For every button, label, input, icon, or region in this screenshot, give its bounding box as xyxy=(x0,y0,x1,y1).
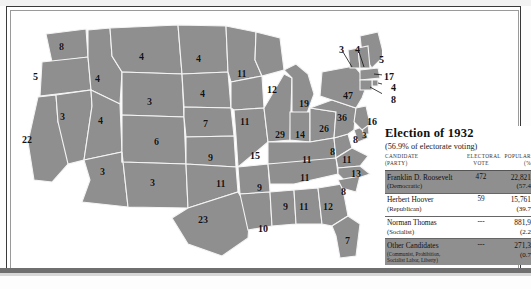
state-NE xyxy=(184,107,234,137)
state-AZ xyxy=(82,152,128,207)
vote-label-AR: 9 xyxy=(257,183,262,193)
cell-popular: 881,9 (2.2 xyxy=(495,216,531,239)
vote-label-IL: 29 xyxy=(275,130,285,140)
vote-label-MI: 19 xyxy=(299,99,309,109)
header-electoral-sub: VOTE xyxy=(473,160,489,166)
header-electoral: ELECTORAL VOTE xyxy=(467,153,495,167)
vote-label-NE: 7 xyxy=(203,119,208,129)
vote-label-KS: 9 xyxy=(208,153,213,163)
vote-label-CA: 22 xyxy=(22,135,32,145)
cell-candidate: Herbert Hoover (Republican) xyxy=(385,193,467,216)
table-row: Other Candidates (Communist, Prohibition… xyxy=(385,239,531,265)
popular-votes: 271,3 xyxy=(514,241,531,250)
vote-label-WI: 12 xyxy=(267,85,277,95)
us-electoral-map: 8 5 22 4 3 4 3 4 3 6 3 4 4 7 9 11 23 11 … xyxy=(12,12,382,264)
cell-electoral: 472 xyxy=(467,171,495,194)
state-IA xyxy=(231,76,264,110)
header-candidate-sub: (PARTY) xyxy=(385,160,408,166)
vote-label-CO: 6 xyxy=(154,137,159,147)
vote-label-DE: 3 xyxy=(362,131,367,140)
legend-subtitle: (56.9% of electorate voting) xyxy=(385,142,531,151)
candidate-party-2: Socialist Labor, Liberty) xyxy=(387,257,467,264)
state-OR xyxy=(40,57,91,96)
vote-label-CT: 8 xyxy=(391,95,396,105)
vote-label-AZ: 3 xyxy=(100,167,105,177)
table-row: Norman Thomas (Socialist) --- 881,9 (2.2 xyxy=(385,216,531,239)
vote-label-PA: 36 xyxy=(337,113,347,123)
vote-label-MN: 11 xyxy=(237,69,246,79)
vote-label-ND: 4 xyxy=(196,54,201,64)
cell-candidate: Norman Thomas (Socialist) xyxy=(385,216,467,239)
candidate-party: (Republican) xyxy=(387,205,467,214)
results-table: CANDIDATE (PARTY) ELECTORAL VOTE POPULAR… xyxy=(385,153,531,265)
vote-label-SC: 8 xyxy=(341,187,346,197)
results-table-head: CANDIDATE (PARTY) ELECTORAL VOTE POPULAR… xyxy=(385,153,531,171)
candidate-name: Franklin D. Roosevelt xyxy=(387,173,452,182)
candidate-name: Norman Thomas xyxy=(387,218,437,227)
vote-label-WV: 8 xyxy=(330,147,335,157)
popular-votes: 15,761 xyxy=(511,195,531,204)
vote-label-OK: 11 xyxy=(216,179,225,189)
cell-electoral: --- xyxy=(467,239,495,265)
vote-label-VT: 3 xyxy=(339,45,344,55)
table-row: Herbert Hoover (Republican) 59 15,761 (3… xyxy=(385,193,531,216)
vote-label-TX: 23 xyxy=(198,215,208,225)
vote-label-NY: 47 xyxy=(343,91,353,101)
cell-candidate: Franklin D. Roosevelt (Democratic) xyxy=(385,171,467,194)
vote-label-NM: 3 xyxy=(150,178,155,188)
vote-label-LA: 10 xyxy=(258,224,268,234)
candidate-party: (Democratic) xyxy=(387,182,467,191)
vote-label-NC: 13 xyxy=(351,169,361,179)
vote-label-MO: 15 xyxy=(250,151,260,161)
candidate-name: Herbert Hoover xyxy=(387,195,434,204)
cell-candidate: Other Candidates (Communist, Prohibition… xyxy=(385,239,467,265)
cell-popular: 271,3 (0.7 xyxy=(495,239,531,265)
popular-percent: (57.4 xyxy=(497,182,531,191)
vote-label-VA: 11 xyxy=(342,155,351,165)
table-row: Franklin D. Roosevelt (Democratic) 472 2… xyxy=(385,171,531,194)
cell-electoral: --- xyxy=(467,216,495,239)
vote-label-NJ: 16 xyxy=(367,117,377,127)
cell-electoral: 59 xyxy=(467,193,495,216)
candidate-party: (Socialist) xyxy=(387,228,467,237)
vote-label-IN: 14 xyxy=(295,130,305,140)
state-MT xyxy=(110,25,182,74)
state-WA xyxy=(46,29,88,62)
election-map-page: 8 5 22 4 3 4 3 4 3 6 3 4 4 7 9 11 23 11 … xyxy=(0,0,531,289)
vote-label-MS: 9 xyxy=(283,202,288,212)
header-candidate-main: CANDIDATE xyxy=(385,153,418,159)
vote-label-OR: 5 xyxy=(33,72,38,82)
state-WY xyxy=(122,72,184,117)
leader-line-ri xyxy=(378,83,382,86)
vote-label-OH: 26 xyxy=(319,124,329,134)
state-AR xyxy=(238,164,270,194)
vote-label-MD: 8 xyxy=(353,135,358,145)
vote-label-TN: 11 xyxy=(300,173,309,183)
vote-label-WA: 8 xyxy=(59,42,64,52)
cell-popular: 15,761 (39.7 xyxy=(495,193,531,216)
vote-label-IA: 11 xyxy=(240,117,249,127)
bottom-bar-highlight xyxy=(0,273,531,276)
header-popular-sub: (% xyxy=(524,160,531,166)
election-results-legend: Election of 1932 (56.9% of electorate vo… xyxy=(385,126,531,259)
header-candidate: CANDIDATE (PARTY) xyxy=(385,153,467,167)
state-RI xyxy=(372,80,378,86)
state-WI xyxy=(255,32,284,76)
popular-votes: 881,9 xyxy=(514,218,531,227)
vote-label-ME: 5 xyxy=(379,55,384,65)
cell-popular: 22,821 (57.4 xyxy=(495,171,531,194)
results-table-body: Franklin D. Roosevelt (Democratic) 472 2… xyxy=(385,171,531,265)
state-SD xyxy=(182,72,231,108)
state-ND xyxy=(178,25,228,74)
map-svg xyxy=(12,12,382,264)
vote-label-MA: 17 xyxy=(384,72,394,82)
table-header-row: CANDIDATE (PARTY) ELECTORAL VOTE POPULAR… xyxy=(385,153,531,167)
vote-label-FL: 7 xyxy=(345,236,350,246)
vote-label-UT: 4 xyxy=(98,116,103,126)
header-popular-main: POPULAR xyxy=(504,153,531,159)
vote-label-AL: 11 xyxy=(299,202,308,212)
popular-percent: (39.7 xyxy=(497,205,531,214)
vote-label-KY: 11 xyxy=(302,155,311,165)
state-CT xyxy=(360,80,372,90)
header-electoral-main: ELECTORAL xyxy=(467,153,501,159)
